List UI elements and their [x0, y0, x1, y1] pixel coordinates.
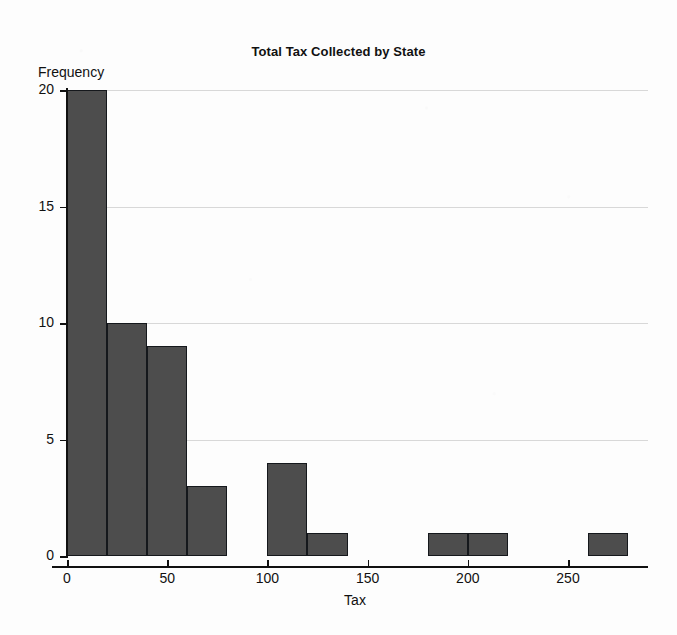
histogram-bar	[267, 463, 307, 556]
y-tick-mark-20	[60, 90, 68, 92]
gridline-20	[67, 90, 648, 91]
histogram-figure: Total Tax Collected by State Frequency 0…	[0, 0, 677, 635]
x-tick-mark-150	[368, 560, 370, 567]
x-tick-label-150: 150	[338, 570, 398, 586]
x-axis-line	[52, 566, 648, 568]
x-tick-label-250: 250	[538, 570, 598, 586]
y-tick-label-15: 15	[14, 198, 54, 214]
histogram-bar	[147, 346, 187, 556]
x-tick-label-200: 200	[438, 570, 498, 586]
x-tick-mark-100	[267, 560, 269, 567]
y-tick-mark-5	[60, 440, 68, 442]
y-tick-mark-0	[60, 556, 68, 558]
gridline-10	[67, 323, 648, 324]
x-axis-title: Tax	[0, 592, 677, 608]
histogram-bar	[307, 533, 347, 556]
x-tick-label-0: 0	[37, 570, 97, 586]
x-tick-label-100: 100	[237, 570, 297, 586]
x-tick-label-50: 50	[137, 570, 197, 586]
histogram-bar	[107, 323, 147, 556]
x-tick-mark-50	[167, 560, 169, 567]
x-tick-mark-0	[67, 560, 69, 567]
histogram-bar	[428, 533, 468, 556]
x-tick-mark-250	[568, 560, 570, 567]
histogram-bar	[187, 486, 227, 556]
y-tick-label-10: 10	[14, 314, 54, 330]
plot-area: 05101520 050100150200250	[0, 0, 677, 635]
histogram-bar	[588, 533, 628, 556]
y-tick-label-0: 0	[14, 547, 54, 563]
gridline-15	[67, 207, 648, 208]
x-tick-mark-200	[468, 560, 470, 567]
y-tick-label-20: 20	[14, 81, 54, 97]
histogram-bar	[468, 533, 508, 556]
histogram-bar	[67, 90, 107, 556]
y-tick-mark-15	[60, 207, 68, 209]
y-tick-mark-10	[60, 323, 68, 325]
y-tick-label-5: 5	[14, 431, 54, 447]
